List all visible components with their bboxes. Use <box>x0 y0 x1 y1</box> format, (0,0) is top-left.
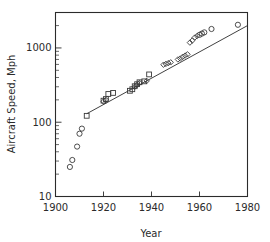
data-point-square <box>84 113 89 118</box>
data-point-circle <box>70 157 75 162</box>
data-point-circle <box>209 26 214 31</box>
data-point-circle <box>75 144 80 149</box>
y-axis-tick-labels: 101001000 <box>26 42 51 202</box>
y-tick-label: 1000 <box>26 42 51 53</box>
data-point-circle <box>235 22 240 27</box>
y-tick-label: 10 <box>39 191 52 202</box>
y-axis-ticks <box>56 13 62 197</box>
data-markers <box>67 22 240 169</box>
trend-line <box>87 26 248 114</box>
chart-canvas: 101001000 19001920194019601980 Year Airc… <box>0 0 270 242</box>
x-tick-label: 1960 <box>187 202 212 213</box>
x-tick-label: 1920 <box>91 202 116 213</box>
y-axis-title: Aircraft Speed, Mph <box>6 55 17 154</box>
x-axis-title: Year <box>139 228 162 239</box>
data-point-square <box>111 91 116 96</box>
data-point-circle <box>77 131 82 136</box>
data-point-square <box>147 72 152 77</box>
x-axis-tick-labels: 19001920194019601980 <box>43 202 260 213</box>
plot-frame <box>56 13 248 197</box>
x-tick-label: 1980 <box>235 202 260 213</box>
x-axis-ticks <box>56 192 248 197</box>
data-point-circle <box>67 164 72 169</box>
aircraft-speed-chart-figure: 101001000 19001920194019601980 Year Airc… <box>0 0 270 242</box>
y-tick-label: 100 <box>32 117 51 128</box>
x-tick-label: 1900 <box>43 202 68 213</box>
data-point-circle <box>79 126 84 131</box>
data-point-square <box>106 92 111 97</box>
x-tick-label: 1940 <box>139 202 164 213</box>
